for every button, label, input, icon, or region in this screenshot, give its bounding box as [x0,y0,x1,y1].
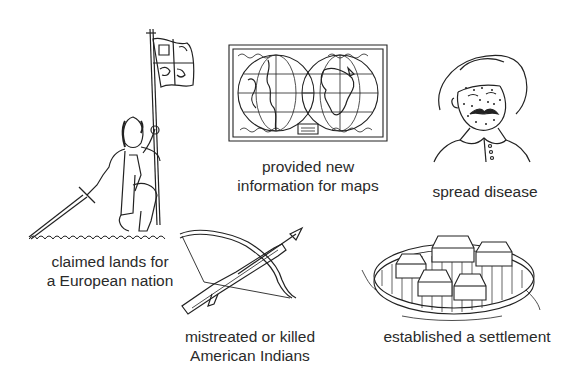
world-map-icon [228,44,388,142]
explorer-with-flag-icon [25,25,195,245]
caption-disease: spread disease [425,182,545,201]
caption-line: American Indians [165,346,335,365]
caption-explorer: claimed lands for a European nation [20,252,200,290]
caption-line: a European nation [20,271,200,290]
crossbow-icon [178,228,308,320]
sick-man-icon [430,48,540,163]
caption-line: information for maps [218,176,398,195]
caption-crossbow: mistreated or killed American Indians [165,327,335,365]
caption-line: spread disease [425,182,545,201]
caption-line: provided new [218,157,398,176]
caption-settlement: established a settlement [372,327,562,346]
caption-line: established a settlement [372,327,562,346]
caption-map: provided new information for maps [218,157,398,195]
caption-line: mistreated or killed [165,327,335,346]
fort-settlement-icon [362,230,542,322]
caption-line: claimed lands for [20,252,200,271]
